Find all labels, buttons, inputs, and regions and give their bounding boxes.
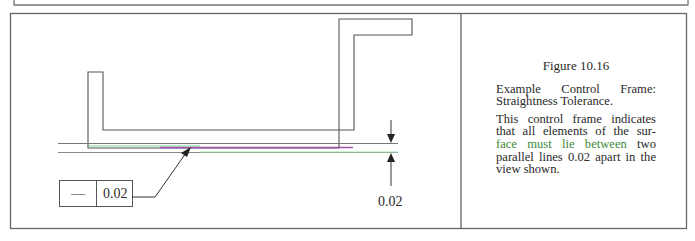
figure-caption: Figure 10.16 Example Control Frame: Stra… [496,60,656,181]
tolerance-value: 0.02 [103,186,128,201]
leader-line [132,153,186,197]
figure-title: Example Control Frame: Straightness Tole… [496,83,656,108]
dimension-label: 0.02 [378,194,403,209]
dimension-arrow-down-icon [387,134,395,143]
figure-description: This control frame indicates that all el… [496,113,656,176]
figure-number: Figure 10.16 [496,60,656,73]
previous-frame-edge [14,0,688,5]
straightness-symbol-icon: — [70,186,86,201]
description-text: This control frame indicates that all el… [496,112,656,139]
part-outline [88,19,412,148]
